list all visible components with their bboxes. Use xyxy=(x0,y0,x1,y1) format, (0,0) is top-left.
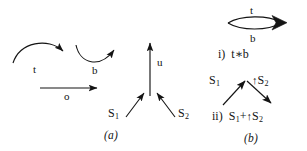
peak-s1-label: S1 xyxy=(209,74,220,88)
panel-b-caption: (b) xyxy=(244,133,258,145)
peak-s2-label: ↑S2 xyxy=(252,74,268,88)
item-ii-caption: ii) S1+↑S2 xyxy=(212,110,263,124)
s2-diagonal-arrow xyxy=(157,93,175,117)
lens-bottom-label: b xyxy=(250,33,256,44)
item-ii-plus: + xyxy=(240,109,247,123)
item-ii-tick: ↑ xyxy=(246,111,252,122)
s1-label-base: S xyxy=(108,106,115,120)
item-ii-right-sub: 2 xyxy=(259,115,263,124)
s2-label-sub: 2 xyxy=(185,112,189,121)
o-arrow-label: o xyxy=(64,91,70,102)
s2-label-base: S xyxy=(178,106,185,120)
u-arrow-label: u xyxy=(157,57,163,68)
lens-top-label: t xyxy=(250,5,253,16)
lens-upper-curve xyxy=(228,17,280,23)
t-arc-arrow xyxy=(13,43,63,63)
lens-arrowhead xyxy=(272,16,287,31)
item-i-expr-right: b xyxy=(243,47,249,61)
peak-s1-sub: 1 xyxy=(216,79,220,88)
t-arc-label: t xyxy=(33,64,36,75)
b-arc-arrow xyxy=(76,45,114,62)
s1-peak-arrow xyxy=(223,81,245,105)
s2-label: S2 xyxy=(178,107,189,121)
item-ii-prefix: ii) xyxy=(212,109,223,123)
s1-label-sub: 1 xyxy=(115,112,119,121)
s1-diagonal-arrow xyxy=(126,93,144,117)
peak-s2-tick: ↑ xyxy=(252,75,258,86)
item-i-prefix: i) xyxy=(218,47,225,61)
peak-s2-sub: 2 xyxy=(264,79,268,88)
panel-a-caption: (a) xyxy=(104,130,118,142)
item-ii-right-base: S xyxy=(252,109,259,123)
b-arc-label: b xyxy=(92,65,98,76)
item-ii-left-base: S xyxy=(226,109,236,123)
item-i-operator: ∗ xyxy=(235,47,243,61)
s1-label: S1 xyxy=(108,107,119,121)
item-i-caption: i) t∗b xyxy=(218,48,249,60)
peak-s1-base: S xyxy=(209,73,216,87)
figure-canvas: t b o u S1 S2 (a) t b i) t∗b S1 ↑S2 ii) … xyxy=(0,0,307,151)
